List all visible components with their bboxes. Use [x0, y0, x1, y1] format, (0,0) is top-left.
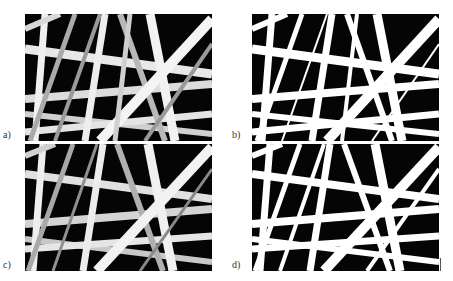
edge-mark — [440, 258, 441, 271]
panel-c-label: c) — [3, 259, 11, 270]
fiber-network-grayscale — [25, 14, 212, 141]
fiber-network-binarized — [252, 14, 439, 141]
fiber-network-grayscale — [25, 144, 212, 271]
panel-a-label: a) — [3, 129, 11, 140]
panel-a-fiber-image — [25, 14, 212, 141]
panel-d-fiber-image — [252, 144, 439, 271]
fiber-network-binarized — [252, 144, 439, 271]
panel-b-fiber-image — [252, 14, 439, 141]
panel-d-label: d) — [232, 259, 240, 270]
panel-b-label: b) — [232, 129, 240, 140]
panel-c-fiber-image — [25, 144, 212, 271]
